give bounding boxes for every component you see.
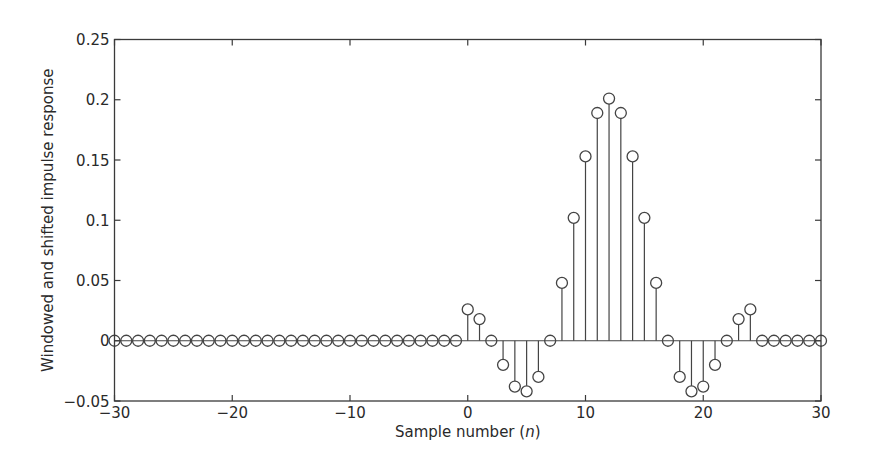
stem-marker	[592, 108, 603, 119]
y-axis-label: Windowed and shifted impulse response	[39, 69, 57, 372]
stem-marker	[651, 277, 662, 288]
stem-marker	[533, 371, 544, 382]
stem-marker	[674, 371, 685, 382]
y-tick-label: 0.2	[86, 91, 110, 109]
stem-marker	[474, 314, 485, 325]
x-tick-label: 0	[463, 404, 473, 422]
stem-marker	[568, 212, 579, 223]
stem-marker	[498, 359, 509, 370]
stem-marker	[710, 359, 721, 370]
stem-marker	[686, 386, 697, 397]
stem-marker	[745, 304, 756, 315]
stem-marker	[639, 212, 650, 223]
stem-marker	[580, 151, 591, 162]
x-tick-labels: −30−20−100102030	[99, 404, 831, 422]
y-tick-label: 0.25	[76, 31, 109, 49]
y-tick-labels: −0.0500.050.10.150.20.25	[64, 31, 110, 411]
x-tick-label: 30	[811, 404, 830, 422]
y-tick-label: 0.05	[76, 272, 109, 290]
x-tick-label: −10	[334, 404, 366, 422]
x-axis-label-variable: n	[525, 423, 535, 441]
stem-marker	[615, 108, 626, 119]
x-tick-label: −20	[216, 404, 248, 422]
stem-chart: −30−20−100102030 −0.0500.050.10.150.20.2…	[0, 0, 870, 468]
x-axis-label-prefix: Sample number (	[395, 423, 525, 441]
stem-series	[109, 93, 827, 397]
y-tick-label: −0.05	[64, 393, 110, 411]
x-axis-label-suffix: )	[535, 423, 541, 441]
y-tick-label: 0	[100, 332, 110, 350]
y-tick-label: 0.1	[86, 212, 110, 230]
x-axis-label: Sample number (n)	[395, 423, 541, 441]
stem-marker	[462, 304, 473, 315]
y-tick-label: 0.15	[76, 152, 109, 170]
stem-marker	[556, 277, 567, 288]
stem-marker	[733, 314, 744, 325]
stem-marker	[509, 381, 520, 392]
stem-marker	[521, 386, 532, 397]
stem-marker	[627, 151, 638, 162]
stem-marker	[698, 381, 709, 392]
x-tick-label: 20	[694, 404, 713, 422]
x-tick-label: 10	[576, 404, 595, 422]
stem-marker	[604, 93, 615, 104]
